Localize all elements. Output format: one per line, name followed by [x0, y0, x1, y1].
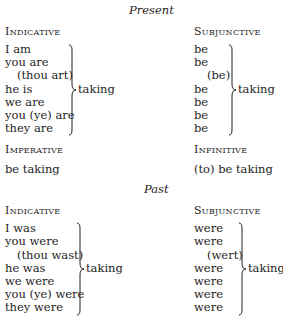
right-brace-icon — [238, 222, 248, 316]
past-subjunctive-heading: Subjunctive — [194, 204, 261, 217]
present-subjunctive-heading: Subjunctive — [194, 25, 261, 38]
conjugation-line: were — [194, 301, 223, 314]
imperative-value: be taking — [5, 163, 60, 176]
right-brace-icon — [76, 222, 86, 316]
conjugation-line: were — [194, 235, 223, 248]
present-title: Present — [129, 4, 174, 17]
past-indicative-result: taking — [86, 262, 123, 275]
past-subjunctive-result: taking — [248, 262, 283, 275]
imperative-heading: Imperative — [5, 143, 63, 156]
conjugation-line: (be) — [207, 69, 230, 82]
past-title: Past — [144, 183, 169, 196]
conjugation-line: they were — [5, 301, 63, 314]
right-brace-icon — [68, 44, 78, 136]
conjugation-line: you were — [5, 235, 58, 248]
infinitive-value: (to) be taking — [194, 163, 273, 176]
right-brace-icon — [228, 44, 238, 136]
conjugation-line: (thou art) — [17, 69, 73, 82]
present-subjunctive-result: taking — [238, 83, 275, 96]
past-indicative-heading: Indicative — [5, 204, 61, 217]
conjugation-line: be — [194, 122, 208, 135]
conjugation-line: they are — [5, 122, 53, 135]
infinitive-heading: Infinitive — [194, 143, 247, 156]
present-indicative-result: taking — [78, 83, 115, 96]
present-indicative-heading: Indicative — [5, 25, 61, 38]
